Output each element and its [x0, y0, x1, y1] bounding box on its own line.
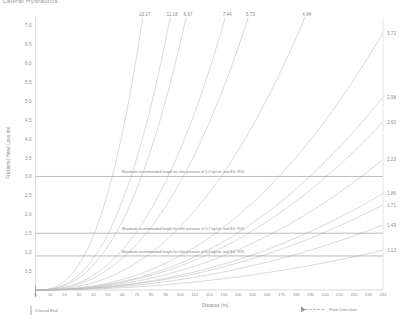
x-tick-label: 140: [231, 292, 245, 297]
x-tick-label: 60: [115, 292, 129, 297]
x-tick-label: 20: [57, 292, 71, 297]
x-tick-label: 30: [72, 292, 86, 297]
x-tick-label: 190: [304, 292, 318, 297]
y-tick-label: 1.5: [16, 231, 32, 236]
curve-end-label-top: 6.67: [184, 12, 193, 17]
x-tick-label: 150: [246, 292, 260, 297]
curve-end-label-right: 2.98: [387, 94, 396, 99]
y-tick-label: 0.5: [16, 269, 32, 274]
x-axis-title: Distance (m): [160, 303, 270, 308]
curve-end-label-right: 1.49: [387, 222, 396, 227]
x-tick-label: 10: [43, 292, 57, 297]
y-tick-label: 5.0: [16, 98, 32, 103]
x-tick-label: 160: [260, 292, 274, 297]
y-tick-label: 1.0: [16, 250, 32, 255]
x-tick-label: 200: [318, 292, 332, 297]
x-tick-label: 70: [130, 292, 144, 297]
y-axis-title: Frictional Head Loss (m): [6, 118, 11, 188]
x-tick-label: 120: [202, 292, 216, 297]
reference-annotation-label: Maximum recommended length for inlet pre…: [122, 227, 244, 231]
x-tick-label: 90: [159, 292, 173, 297]
y-tick-label: 2.0: [16, 212, 32, 217]
x-tick-label: 100: [173, 292, 187, 297]
legend-flow-direction: Flow Direction: [300, 306, 357, 313]
x-tick-label: 80: [144, 292, 158, 297]
reference-line-group: [36, 176, 384, 255]
curve-end-label-top: 13.17: [139, 12, 151, 17]
curve-end-label-right: 3.72: [387, 30, 396, 35]
reference-annotation-label: Maximum recommended length for inlet pre…: [122, 250, 244, 254]
x-tick-label: 240: [376, 292, 390, 297]
y-tick-label: 4.0: [16, 136, 32, 141]
curve-end-label-top: 4.84: [302, 12, 311, 17]
y-tick-label: 6.5: [16, 41, 32, 46]
y-tick-label: 7.0: [16, 23, 32, 28]
x-tick-label: 40: [86, 292, 100, 297]
reference-annotation-label: Maximum recommended length for inlet pre…: [122, 170, 244, 174]
y-tick-label: 2.5: [16, 193, 32, 198]
closed-end-label: Closed End: [35, 308, 58, 313]
curve-end-label-right: 2.60: [387, 119, 396, 124]
plot-area: [0, 0, 415, 325]
x-tick-label: 110: [188, 292, 202, 297]
curve-end-label-right: 2.23: [387, 157, 396, 162]
closed-end-icon: [30, 306, 32, 315]
y-tick-label: 6.0: [16, 60, 32, 65]
y-tick-label: 3.5: [16, 155, 32, 160]
curve-end-label-right: 1.86: [387, 191, 396, 196]
curve-end-label-top: 7.44: [223, 12, 232, 17]
y-tick-label: 3.0: [16, 174, 32, 179]
x-tick-label: 210: [333, 292, 347, 297]
x-tick-label: 50: [101, 292, 115, 297]
x-tick-label: 220: [347, 292, 361, 297]
y-tick-label: 4.5: [16, 117, 32, 122]
x-tick-label: 170: [275, 292, 289, 297]
curve-end-label-right: 1.12: [387, 248, 396, 253]
x-tick-label: 130: [217, 292, 231, 297]
x-tick-label: 180: [289, 292, 303, 297]
y-tick-label: 5.5: [16, 79, 32, 84]
chart-container: Lateral Hydraulics 7.06.56.05.55.04.54.0…: [0, 0, 415, 325]
x-tick-label: 230: [362, 292, 376, 297]
legend-closed-end: Closed End: [30, 306, 58, 315]
flow-direction-label: Flow Direction: [329, 307, 357, 312]
curve-end-label-right: 1.71: [387, 202, 396, 207]
flow-direction-icon: [300, 306, 326, 313]
curve-end-label-top: 5.73: [246, 12, 255, 17]
x-tick-label: 0: [29, 292, 43, 297]
curve-end-label-top: 11.18: [167, 12, 178, 17]
